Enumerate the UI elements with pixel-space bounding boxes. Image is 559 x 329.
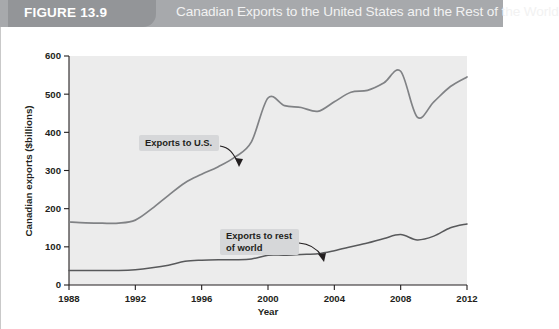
annotation-label-row-line2: of world xyxy=(226,242,263,253)
figure-header-banner: FIGURE 13.9 Canadian Exports to the Unit… xyxy=(0,0,503,27)
y-tick-label: 500 xyxy=(45,89,61,100)
y-axis-title: Canadian exports ($billions) xyxy=(23,105,34,236)
chart-plot-region: 0100200300400500600 19881992199620002004… xyxy=(1,27,504,329)
exports-line-chart: 0100200300400500600 19881992199620002004… xyxy=(1,27,504,329)
figure-body: 0100200300400500600 19881992199620002004… xyxy=(0,27,503,329)
x-tick-label: 2008 xyxy=(390,293,412,304)
x-tick-label: 1996 xyxy=(191,293,212,304)
y-tick-label: 400 xyxy=(45,127,61,138)
x-axis-title: Year xyxy=(258,306,279,317)
y-tick-label: 600 xyxy=(45,50,61,61)
figure-number-label: FIGURE 13.9 xyxy=(24,5,107,20)
x-tick-label: 2004 xyxy=(324,293,346,304)
y-axis-ticks xyxy=(64,56,69,285)
y-tick-label: 200 xyxy=(45,203,61,214)
x-axis-ticks xyxy=(69,285,467,290)
y-tick-label: 0 xyxy=(56,279,61,290)
annotation-label-row-line1: Exports to rest xyxy=(226,230,292,241)
x-tick-label: 1992 xyxy=(125,293,146,304)
x-axis-tick-labels: 1988199219962000200420082012 xyxy=(58,293,477,304)
y-axis-tick-labels: 0100200300400500600 xyxy=(45,50,61,290)
y-tick-label: 100 xyxy=(45,241,61,252)
x-tick-label: 2000 xyxy=(257,293,278,304)
y-tick-label: 300 xyxy=(45,165,61,176)
annotation-label-us: Exports to U.S. xyxy=(145,137,212,148)
x-tick-label: 2012 xyxy=(456,293,477,304)
figure-title: Canadian Exports to the United States an… xyxy=(176,4,501,19)
x-tick-label: 1988 xyxy=(58,293,80,304)
